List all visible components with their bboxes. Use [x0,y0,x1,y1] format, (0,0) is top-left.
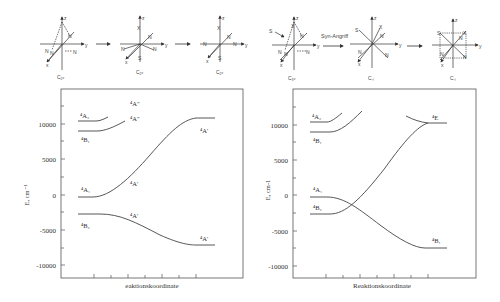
svg-text:⁴A': ⁴A' [200,127,208,134]
svg-text:⁴B₁: ⁴B₁ [432,237,441,244]
left-y-tick-labels: 10000 5000 0 -5000 -10000 [36,121,56,270]
svg-text:x: x [206,58,209,64]
svg-text:⁴B₁: ⁴B₁ [81,136,90,143]
svg-text:5000: 5000 [42,156,57,164]
svg-text:S: S [218,55,222,61]
svg-text:0: 0 [53,192,57,200]
svg-text:z: z [374,15,377,21]
right-energy-plot: 10000 5000 0 -5000 -10000 E, cm-1 Reakti… [264,89,476,290]
svg-text:X: X [463,30,467,36]
molecule-diagram-6 [432,19,478,68]
svg-text:C₃ᵥ: C₃ᵥ [288,75,296,81]
left-x-axis-label: eaktionskoordinate [125,282,178,290]
svg-text:N: N [278,49,282,55]
svg-text:⁴A₁: ⁴A₁ [313,186,322,193]
svg-text:N: N [380,33,384,39]
svg-text:y: y [165,42,168,48]
svg-text:Syn-Angriff: Syn-Angriff [321,33,349,39]
svg-text:X: X [379,24,383,30]
svg-text:z: z [64,15,67,21]
svg-text:N: N [306,49,310,55]
svg-text:N: N [68,33,72,39]
svg-text:⁴E: ⁴E [432,114,438,121]
svg-text:N: N [50,50,54,56]
svg-text:N: N [233,41,237,47]
svg-text:z: z [222,15,225,21]
left-curves [78,117,215,245]
svg-text:y: y [399,42,402,48]
svg-text:N: N [45,48,49,54]
right-curves [310,111,447,248]
svg-text:N: N [121,46,125,52]
svg-text:N: N [284,51,288,57]
molecule-1-labels: z y N N N N x C₂ᵥ [45,15,88,80]
svg-text:-10000: -10000 [268,263,288,271]
svg-text:N: N [300,33,304,39]
svg-text:C₂ᵥ: C₂ᵥ [57,74,65,80]
svg-text:-5000: -5000 [272,228,289,236]
svg-text:⁴A₂: ⁴A₂ [80,112,89,119]
svg-text:⁴A': ⁴A' [130,180,138,187]
molecule-4-labels: z X S y N N N N x C₃ᵥ [269,15,320,81]
svg-text:5000: 5000 [274,157,289,165]
left-curve-A1 [78,118,215,197]
svg-text:Cₛ: Cₛ [450,75,456,81]
svg-text:⁴B₂: ⁴B₂ [313,204,322,211]
svg-text:x: x [46,62,49,68]
svg-text:⁴B₁: ⁴B₁ [313,137,322,144]
svg-text:N: N [153,46,157,52]
molecule-3-labels: z X y N N N S x C₂ᵥ [203,15,248,75]
svg-text:X: X [291,23,295,29]
right-curve-A1-to-B1 [310,197,447,248]
left-state-labels: ⁴A₂ ⁴B₁ ⁴A₁ ⁴B₂ ⁴A" ⁴A" ⁴A' ⁴A' ⁴A' ⁴A' [80,100,208,242]
svg-text:S: S [269,28,273,34]
svg-text:⁴A': ⁴A' [130,212,138,219]
svg-text:X: X [137,25,141,31]
svg-text:C₂ᵥ: C₂ᵥ [136,69,144,75]
figure-canvas: z y N N N N x C₂ᵥ z X y N N N S x C₂ᵥ z … [0,0,500,302]
syn-attack-arrow: Syn-Angriff [321,33,349,46]
svg-text:⁴B₂: ⁴B₂ [81,222,90,229]
svg-text:0: 0 [285,192,289,200]
molecule-diagram-2 [120,16,164,62]
left-curve-B2 [78,214,215,245]
svg-text:N: N [459,35,463,41]
svg-text:y: y [317,43,320,49]
right-curve-E-upper [406,116,428,123]
svg-text:N: N [73,49,77,55]
right-y-tick-labels: 10000 5000 0 -5000 -10000 [268,122,288,271]
svg-text:X: X [217,25,221,31]
svg-text:x: x [358,61,361,67]
svg-text:S: S [355,27,359,33]
right-x-axis-label: Reaktionskoordinate [353,282,411,290]
svg-text:N: N [203,41,207,47]
svg-text:N: N [358,49,362,55]
svg-text:-10000: -10000 [36,262,56,270]
svg-text:x: x [441,62,444,68]
svg-text:⁴A₁: ⁴A₁ [81,186,90,193]
svg-text:y: y [85,42,88,48]
svg-text:N: N [385,52,389,58]
svg-text:y: y [479,43,482,49]
left-energy-plot: 10000 5000 0 -5000 -10000 E, cm⁻¹ eaktio… [23,89,243,290]
right-y-axis-label: E, cm-1 [264,180,271,201]
svg-text:z: z [455,17,458,23]
svg-text:⁴A": ⁴A" [130,100,140,107]
molecule-5-labels: z S X y N N N x Cₛ [355,15,402,81]
svg-text:⁴A": ⁴A" [130,115,140,122]
svg-text:N: N [440,51,444,57]
svg-text:z: z [142,15,145,21]
svg-text:N: N [148,34,152,40]
svg-text:10000: 10000 [271,122,289,130]
right-curve-B2-to-E [310,123,447,214]
svg-text:⁴A₂: ⁴A₂ [312,113,321,120]
svg-text:x: x [125,59,128,65]
svg-text:⁴A': ⁴A' [200,235,208,242]
left-curve-B1 [78,121,125,131]
svg-text:-5000: -5000 [40,227,57,235]
svg-text:S: S [138,55,142,61]
svg-text:Cₛ: Cₛ [368,75,374,81]
svg-text:10000: 10000 [39,121,57,129]
svg-text:z: z [296,15,299,21]
left-y-axis-label: E, cm⁻¹ [23,184,30,205]
